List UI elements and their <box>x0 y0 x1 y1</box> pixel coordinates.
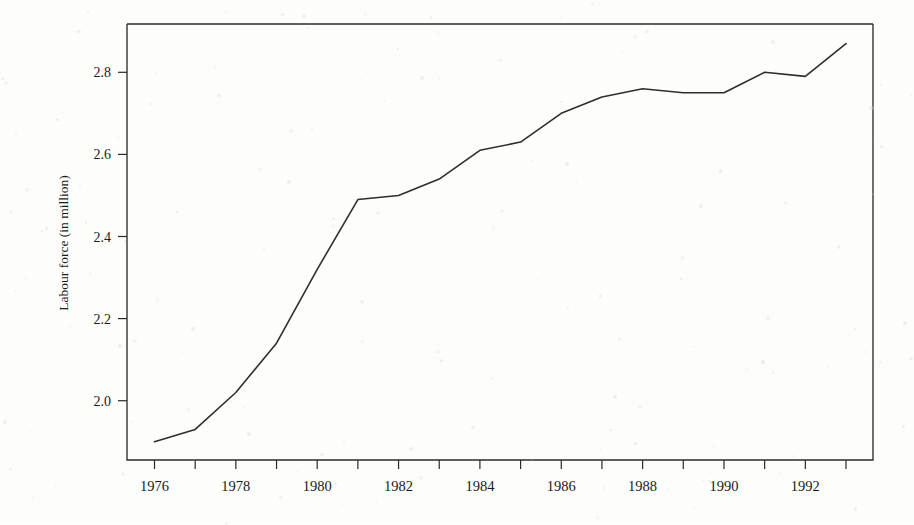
x-tick-label: 1976 <box>140 478 169 494</box>
x-tick-label: 1990 <box>709 478 738 494</box>
x-tick-label: 1992 <box>791 478 820 494</box>
y-tick-label: 2.8 <box>94 65 112 80</box>
x-tick-label: 1984 <box>465 478 495 494</box>
y-axis-ticks: 2.02.22.42.62.8 <box>94 65 128 408</box>
y-tick-label: 2.6 <box>94 147 112 162</box>
x-tick-label: 1982 <box>384 478 413 494</box>
x-tick-label: 1988 <box>628 478 657 494</box>
y-tick-label: 2.2 <box>94 312 112 327</box>
y-axis-label: Labour force (in million) <box>56 175 71 310</box>
y-tick-label: 2.4 <box>94 230 112 245</box>
x-tick-label: 1978 <box>221 478 250 494</box>
x-tick-label: 1980 <box>303 478 332 494</box>
x-tick-label: 1986 <box>547 478 576 494</box>
data-series-labour-force <box>155 44 847 442</box>
axis-frame <box>127 24 873 460</box>
y-tick-label: 2.0 <box>94 394 112 409</box>
x-axis-ticks: 197619781980198219841986198819901992 <box>140 460 846 494</box>
